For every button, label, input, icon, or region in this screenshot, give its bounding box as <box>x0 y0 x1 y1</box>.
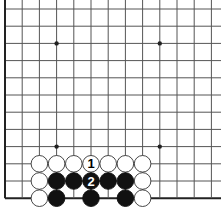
star-point-icon <box>158 144 162 148</box>
star-point-icon <box>54 41 58 45</box>
white-stone <box>31 156 48 173</box>
white-stone <box>31 173 48 190</box>
white-stone <box>134 156 151 173</box>
white-stone <box>66 156 83 173</box>
white-stone <box>100 156 117 173</box>
star-point-icon <box>54 144 58 148</box>
white-stone <box>31 190 48 207</box>
move-number-label: 1 <box>87 156 94 171</box>
black-stone <box>66 173 83 190</box>
stones-layer: 12 <box>31 156 151 207</box>
white-stone <box>117 156 134 173</box>
star-point-icon <box>158 41 162 45</box>
go-board: 12 <box>0 0 221 215</box>
black-stone <box>83 190 100 207</box>
black-stone <box>117 173 134 190</box>
black-stone <box>48 190 65 207</box>
black-stone <box>117 190 134 207</box>
white-stone <box>134 190 151 207</box>
move-number-label: 2 <box>87 174 94 189</box>
white-stone <box>134 173 151 190</box>
black-stone <box>100 173 117 190</box>
white-stone <box>48 156 65 173</box>
black-stone <box>48 173 65 190</box>
